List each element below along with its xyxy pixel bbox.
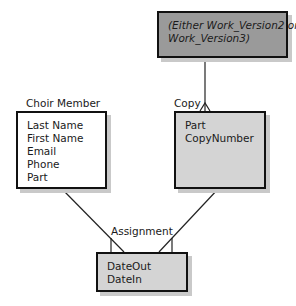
entity-attribute: Work_Version3)	[168, 32, 286, 45]
entity-attribute: (Either Work_Version2 or	[168, 19, 286, 32]
entity-choir-member: Last Name First Name Email Phone Part	[16, 111, 107, 189]
entity-attribute: Phone	[27, 158, 105, 171]
entity-attribute: DateIn	[107, 273, 186, 286]
entity-label-assignment: Assignment	[111, 225, 173, 237]
entity-attribute: DateOut	[107, 260, 186, 273]
entity-attribute: CopyNumber	[185, 132, 264, 145]
entity-attribute: Part	[27, 171, 105, 184]
line-member-to-assignment	[62, 189, 124, 252]
entity-work-version: (Either Work_Version2 or Work_Version3)	[157, 11, 288, 58]
entity-attribute: First Name	[27, 132, 105, 145]
entity-label-choir-member: Choir Member	[26, 97, 100, 109]
entity-copy: Part CopyNumber	[174, 111, 266, 189]
entity-label-copy: Copy	[174, 97, 201, 109]
line-copy-to-assignment	[159, 189, 218, 252]
entity-attribute: Last Name	[27, 119, 105, 132]
entity-attribute: Email	[27, 145, 105, 158]
entity-assignment: DateOut DateIn	[96, 252, 188, 292]
entity-attribute: Part	[185, 119, 264, 132]
